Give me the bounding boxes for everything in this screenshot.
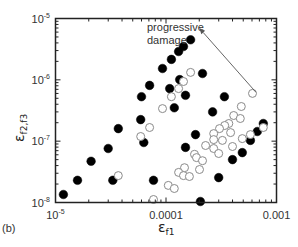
filled-point-0 (186, 36, 195, 45)
y-axis-title: εf2,f3 (11, 114, 29, 142)
x-tick-label-base: 10 (46, 209, 58, 221)
open-point-21 (202, 142, 210, 150)
open-point-22 (229, 143, 237, 151)
panel-label: (b) (2, 222, 15, 234)
filled-point-22 (181, 143, 190, 152)
annotation: progressive damage (147, 21, 256, 92)
open-point-5 (146, 124, 154, 132)
filled-point-31 (196, 197, 205, 206)
y-tick-label-base: 10 (32, 135, 44, 147)
y-tick-label: 10-5 (32, 12, 51, 25)
points-layer (59, 36, 268, 206)
y-tick-label: 10-8 (32, 196, 51, 209)
filled-point-10 (181, 91, 190, 100)
open-point-1 (180, 78, 188, 86)
open-point-15 (259, 124, 267, 132)
filled-point-23 (238, 148, 247, 157)
y-tick-label-base: 10 (32, 74, 44, 86)
x-tick-label-base: 0.0001 (149, 209, 183, 221)
y-tick-label-exp: -8 (44, 196, 50, 203)
filled-point-12 (170, 104, 179, 113)
open-point-10 (236, 115, 244, 123)
open-point-32 (185, 173, 193, 181)
annotation-line-2: damage (147, 34, 187, 46)
filled-point-30 (59, 190, 68, 199)
filled-point-25 (87, 157, 96, 166)
filled-point-27 (73, 176, 82, 185)
filled-point-2 (174, 47, 183, 56)
x-axis-title-symbol: ε (158, 219, 166, 235)
filled-point-14 (136, 115, 145, 124)
open-point-34 (170, 185, 178, 193)
open-point-16 (246, 131, 254, 139)
y-tick-label-exp: -7 (44, 134, 50, 141)
y-axis-title-sub: f2,f3 (19, 114, 29, 135)
open-point-35 (114, 172, 122, 180)
open-point-0 (187, 68, 195, 76)
y-axis-title-symbol: ε (11, 134, 27, 142)
y-tick-label-exp: -6 (44, 73, 50, 80)
filled-point-13 (208, 108, 217, 117)
open-point-8 (237, 103, 245, 111)
x-axis-title-sub: f1 (166, 227, 175, 237)
arrow-line (203, 33, 256, 93)
open-point-7 (249, 89, 257, 97)
filled-point-4 (158, 64, 167, 73)
filled-point-26 (214, 173, 223, 182)
open-point-28 (196, 166, 204, 174)
filled-point-11 (220, 92, 229, 101)
open-point-4 (159, 105, 167, 113)
filled-point-8 (165, 84, 174, 93)
open-point-24 (215, 150, 223, 158)
open-point-6 (137, 133, 145, 141)
x-axis-title: εf1 (158, 219, 174, 237)
x-tick-label-exp: -5 (59, 208, 65, 215)
filled-point-29 (149, 176, 158, 185)
open-point-2 (175, 85, 183, 93)
filled-point-5 (198, 69, 207, 78)
y-axis-title-group: εf2,f3 (11, 114, 29, 142)
x-tick-label: 0.0001 (149, 209, 183, 221)
filled-point-24 (228, 155, 237, 164)
y-tick-label-base: 10 (32, 197, 44, 209)
open-point-17 (227, 129, 235, 137)
annotation-line-1: progressive (147, 21, 204, 33)
x-tick-label: 0.001 (263, 209, 291, 221)
y-tick-label: 10-7 (32, 134, 51, 147)
filled-point-3 (167, 55, 176, 64)
open-point-19 (218, 136, 226, 144)
y-tick-label-base: 10 (32, 13, 44, 25)
filled-point-16 (191, 130, 200, 139)
x-tick-label-base: 0.001 (263, 209, 291, 221)
filled-point-15 (114, 124, 123, 133)
scatter-chart: 10-50.00010.00110-810-710-610-5 progress… (0, 0, 298, 247)
open-point-27 (199, 157, 207, 165)
x-tick-label: 10-5 (46, 208, 65, 221)
open-point-20 (210, 136, 218, 144)
y-tick-label: 10-6 (32, 73, 51, 86)
open-point-3 (167, 93, 175, 101)
filled-point-21 (104, 144, 113, 153)
filled-point-9 (137, 92, 146, 101)
open-point-18 (238, 135, 246, 143)
filled-point-7 (145, 81, 154, 90)
y-tick-label-exp: -5 (44, 12, 50, 19)
